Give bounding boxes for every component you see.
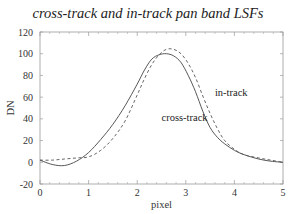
y-tick-label: 120 (18, 27, 33, 38)
x-tick-label: 1 (86, 187, 91, 198)
x-axis-label: pixel (151, 199, 172, 210)
y-tick-label: -20 (20, 179, 33, 190)
series-in-track (40, 49, 283, 163)
x-tick-label: 5 (281, 187, 286, 198)
y-tick-label: 80 (23, 70, 33, 81)
axes: 012345-20020406080100120pixelDN (5, 27, 286, 211)
y-axis-label: DN (5, 100, 16, 116)
series-cross-track (40, 54, 283, 166)
x-tick-label: 4 (232, 187, 237, 198)
series-group (40, 49, 283, 166)
line-chart: 012345-20020406080100120pixelDN in-track… (0, 0, 296, 214)
y-tick-label: 0 (28, 157, 33, 168)
y-tick-label: 40 (23, 113, 33, 124)
x-tick-label: 0 (38, 187, 43, 198)
series-label-cross-track: cross-track (162, 112, 209, 123)
series-label-in-track: in-track (215, 87, 248, 98)
x-tick-label: 2 (135, 187, 140, 198)
y-tick-label: 100 (18, 48, 33, 59)
labels-group: in-trackcross-track (162, 87, 249, 123)
y-tick-label: 60 (23, 92, 33, 103)
x-tick-label: 3 (183, 187, 188, 198)
y-tick-label: 20 (23, 135, 33, 146)
